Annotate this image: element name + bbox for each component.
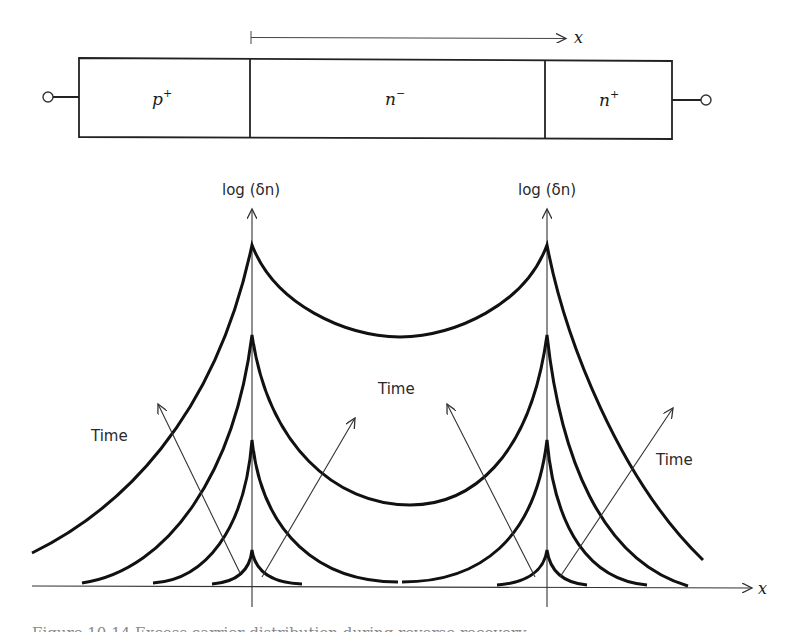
right-terminal bbox=[672, 95, 711, 105]
right-axis-label: log (δn) bbox=[518, 181, 576, 199]
left-axis-label: log (δn) bbox=[222, 181, 280, 199]
time-label-left: Time bbox=[90, 427, 128, 445]
region-label-n-minus: n− bbox=[385, 87, 405, 109]
time-arrow-right-outer bbox=[560, 408, 673, 577]
position-reference-arrow: x bbox=[251, 28, 583, 47]
time-arrow-left-outer bbox=[158, 404, 240, 573]
device-structure: x p+ n− n+ bbox=[43, 28, 711, 139]
region-label-n-plus: n+ bbox=[599, 88, 619, 110]
diagram: x p+ n− n+ log (δn) l bbox=[0, 0, 796, 632]
x-axis-label: x bbox=[758, 579, 767, 598]
profile-curve-t3-left bbox=[212, 550, 302, 584]
profile-curve-t1 bbox=[82, 335, 688, 586]
time-label-right: Time bbox=[655, 451, 693, 469]
profile-curve-t2-right bbox=[402, 440, 647, 585]
time-label-center: Time bbox=[377, 380, 415, 398]
time-arrow-right-inner bbox=[447, 404, 535, 577]
x-axis bbox=[32, 586, 752, 588]
profile-curve-t3-right bbox=[497, 550, 587, 585]
figure-caption: Figure 10.14 Excess carrier distribution… bbox=[32, 624, 772, 632]
position-axis-label: x bbox=[574, 28, 583, 47]
region-label-p-plus: p+ bbox=[152, 87, 172, 109]
left-terminal bbox=[43, 92, 79, 102]
carrier-profile-plot: log (δn) log (δn) x Time Time Time bbox=[32, 181, 767, 607]
